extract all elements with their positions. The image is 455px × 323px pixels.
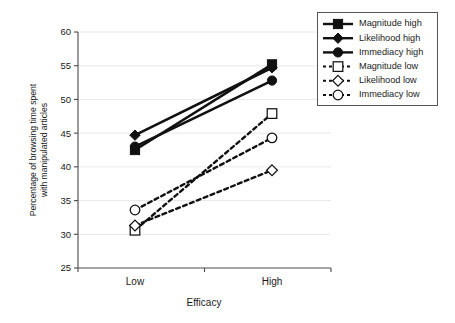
series-immediacy-low [130,133,277,215]
legend-item[interactable]: Likelihood high [323,33,420,44]
data-point-marker [130,205,140,215]
y-tick-label: 25 [60,262,71,273]
legend-label: Immediacy low [359,89,420,99]
series-line [135,68,272,135]
y-tick-label: 50 [60,94,71,105]
x-axis-label: Efficacy [187,297,222,308]
line-chart: 2530354045505560 LowHigh Percentage of b… [0,0,455,323]
legend-label: Magnitude low [359,61,419,71]
data-point-marker [267,109,277,119]
legend-label: Immediacy high [359,47,423,57]
y-tick-label: 55 [60,60,71,71]
legend-marker [333,90,343,100]
y-tick-label: 35 [60,195,71,206]
legend-marker [333,62,343,72]
data-point-marker [130,130,140,140]
series-line [135,114,272,231]
y-tick-label: 45 [60,128,71,139]
legend-label: Likelihood low [359,75,417,85]
y-axis-label-line2: with manipulated articles [39,103,49,198]
data-point-marker [267,133,277,143]
y-axis-label-line1: Percentage of browsing time spent [28,83,38,216]
legend-label: Magnitude high [359,18,422,28]
legend-label: Likelihood high [359,33,420,43]
y-tick-label: 40 [60,161,71,172]
gridlines-group [78,32,331,234]
series-magnitude-high [130,60,276,155]
series-group [130,60,278,235]
x-tick-label: Low [126,276,145,287]
series-line [135,81,272,147]
y-tick-label: 30 [60,229,71,240]
x-axis-ticks-group: LowHigh [78,268,331,287]
legend-item[interactable]: Immediacy low [323,89,420,99]
legend-marker [333,48,342,57]
y-axis-ticks-group: 2530354045505560 [60,26,78,273]
x-tick-label: High [262,276,283,287]
data-point-marker [130,142,139,151]
chart-legend: Magnitude highLikelihood highImmediacy h… [318,13,438,106]
legend-item[interactable]: Magnitude low [323,61,419,71]
legend-item[interactable]: Likelihood low [323,75,417,86]
chart-figure: 2530354045505560 LowHigh Percentage of b… [0,0,455,323]
legend-item[interactable]: Magnitude high [323,18,422,28]
legend-item[interactable]: Immediacy high [323,47,423,57]
data-point-marker [267,76,276,85]
legend-marker [333,19,342,28]
y-tick-label: 60 [60,26,71,37]
series-line [135,138,272,210]
